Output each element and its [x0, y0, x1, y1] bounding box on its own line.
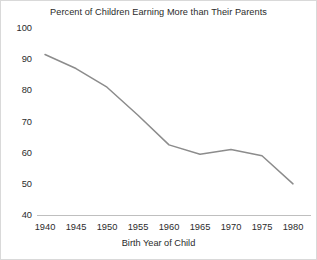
- data-series-line: [45, 54, 293, 183]
- chart-container: Percent of Children Earning More than Th…: [0, 0, 317, 260]
- chart-plot-svg: [0, 0, 317, 260]
- x-axis-title: Birth Year of Child: [0, 238, 317, 248]
